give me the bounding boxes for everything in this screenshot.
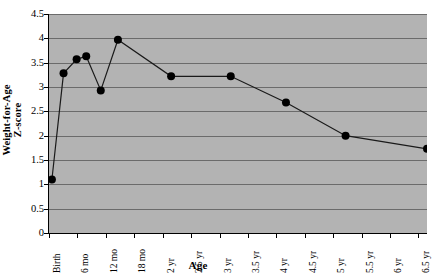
data-point-marker: 3.28 bbox=[60, 69, 68, 77]
x-axis-tick-mark bbox=[134, 234, 135, 238]
y-axis-title-line1: Weight-for-Age bbox=[0, 85, 11, 156]
data-point-marker: 3.63 bbox=[82, 52, 90, 60]
data-series-line: 1.13.283.573.632.933.973.223.222.6821.73 bbox=[49, 14, 427, 233]
data-point-marker: 2.68 bbox=[282, 99, 290, 107]
plot-area: 1.13.283.573.632.933.973.223.222.6821.73 bbox=[48, 14, 427, 234]
data-point-marker: 2.93 bbox=[97, 86, 105, 94]
x-axis-tick-mark bbox=[305, 234, 306, 238]
series-polyline bbox=[52, 40, 427, 180]
x-axis-tick-mark bbox=[106, 234, 107, 238]
data-point-marker: 3.97 bbox=[114, 36, 122, 44]
x-axis-tick-mark bbox=[163, 234, 164, 238]
x-axis-title: Age bbox=[48, 259, 426, 271]
x-axis-tick-mark bbox=[191, 234, 192, 238]
data-point-marker: 3.57 bbox=[73, 55, 81, 63]
chart-figure: Weight-for-Age Z-score 00.511.522.533.54… bbox=[0, 0, 442, 278]
data-point-marker: 1.1 bbox=[49, 175, 56, 183]
x-axis-tick-mark bbox=[77, 234, 78, 238]
x-axis-tick-mark bbox=[248, 234, 249, 238]
data-point-marker: 1.73 bbox=[423, 145, 427, 153]
x-axis-tick-mark bbox=[333, 234, 334, 238]
x-axis-tick-mark bbox=[276, 234, 277, 238]
data-point-marker: 3.22 bbox=[227, 72, 235, 80]
x-axis-tick-mark bbox=[362, 234, 363, 238]
x-axis-tick-mark bbox=[390, 234, 391, 238]
y-axis-tick-labels: 00.511.522.533.544.5 bbox=[18, 0, 48, 278]
x-axis-tick-mark bbox=[49, 234, 50, 238]
data-point-marker: 2 bbox=[342, 132, 350, 140]
data-point-marker: 3.22 bbox=[167, 72, 175, 80]
x-axis-title-text: Age bbox=[189, 259, 208, 271]
x-axis-tick-mark bbox=[418, 234, 419, 238]
x-axis-tick-mark bbox=[220, 234, 221, 238]
